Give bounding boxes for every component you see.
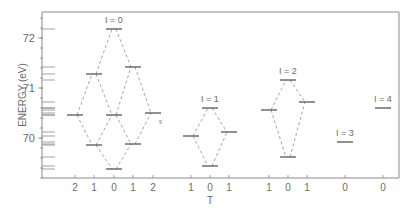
group-label: I = 4 bbox=[374, 94, 392, 104]
t-tick-label: 1 bbox=[304, 182, 310, 193]
t-tick-label: 0 bbox=[111, 182, 117, 193]
t-tick-label: 0 bbox=[207, 182, 213, 193]
speck-mark: 9 bbox=[159, 119, 162, 125]
transition-line bbox=[290, 102, 305, 157]
group-label: I = 0 bbox=[105, 15, 123, 25]
group-label: I = 3 bbox=[336, 128, 354, 138]
y-tick-label: 70 bbox=[23, 132, 35, 144]
transition-line bbox=[271, 110, 286, 157]
transition-line bbox=[212, 108, 227, 132]
transition-line bbox=[135, 113, 151, 144]
t-tick-label: 1 bbox=[91, 182, 97, 193]
transition-line bbox=[116, 144, 131, 169]
group-label: I = 2 bbox=[279, 66, 297, 76]
t-tick-label: 1 bbox=[266, 182, 272, 193]
group-labels: I = 0I = 1I = 2I = 3I = 4 bbox=[105, 15, 392, 138]
transition-line bbox=[96, 115, 112, 145]
y-axis-label: ENERGY (eV) bbox=[17, 63, 28, 127]
t-tick-label: 0 bbox=[342, 182, 348, 193]
transition-line bbox=[193, 108, 208, 136]
t-tick-label: 1 bbox=[188, 182, 194, 193]
t-tick-label: 2 bbox=[72, 182, 78, 193]
transition-line bbox=[116, 67, 131, 115]
energy-levels bbox=[67, 29, 391, 169]
t-tick-label: 2 bbox=[150, 182, 156, 193]
t-tick-label: 1 bbox=[130, 182, 136, 193]
transition-line bbox=[96, 29, 112, 74]
transition-line bbox=[135, 67, 151, 113]
axis-level-references bbox=[42, 29, 55, 169]
transition-line bbox=[116, 29, 131, 67]
transition-lines bbox=[77, 29, 305, 169]
diagram-canvas: 707172 I = 0I = 1I = 2I = 3I = 4 2101210… bbox=[0, 0, 408, 210]
transition-line bbox=[271, 80, 286, 110]
transition-line bbox=[193, 136, 208, 166]
x-axis-label: T bbox=[207, 195, 213, 206]
t-tick-label: 0 bbox=[285, 182, 291, 193]
transition-line bbox=[290, 80, 305, 102]
plot-border bbox=[42, 12, 399, 178]
transition-line bbox=[96, 74, 112, 115]
t-tick-label: 0 bbox=[380, 182, 386, 193]
transition-line bbox=[77, 115, 92, 145]
plot-frame bbox=[42, 12, 399, 178]
group-label: I = 1 bbox=[201, 94, 219, 104]
y-tick-label: 72 bbox=[23, 32, 35, 44]
transition-line bbox=[96, 145, 112, 169]
transition-line bbox=[77, 74, 92, 115]
t-tick-label: 1 bbox=[226, 182, 232, 193]
transition-line bbox=[116, 115, 131, 144]
energy-level-diagram: 707172 I = 0I = 1I = 2I = 3I = 4 2101210… bbox=[0, 0, 408, 210]
transition-line bbox=[212, 132, 227, 166]
